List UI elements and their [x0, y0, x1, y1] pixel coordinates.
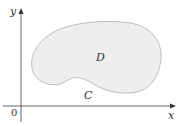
- x-axis-label: x: [168, 109, 175, 122]
- curve-label: C: [84, 89, 93, 102]
- origin-label: 0: [11, 107, 17, 118]
- y-axis-label: y: [9, 5, 17, 18]
- region-label: D: [95, 51, 105, 64]
- x-axis-arrow-icon: [170, 104, 176, 109]
- y-axis-arrow-icon: [19, 8, 24, 14]
- diagram-canvas: y 0 x D C: [0, 0, 181, 126]
